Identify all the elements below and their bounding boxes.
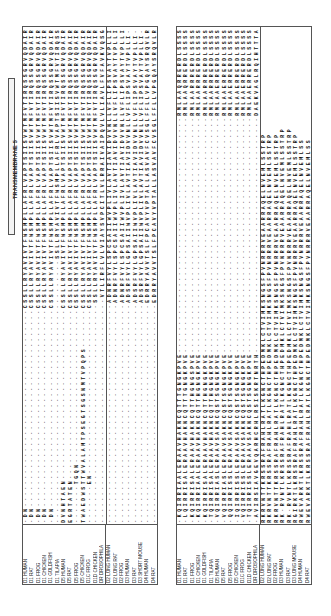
sequence-row: ----------------------------------------… — [152, 27, 158, 524]
residue: - — [152, 376, 158, 382]
residue: A — [254, 513, 260, 519]
species-labels-right: D1 HUMAND1 RATD1 FROGD1 CHICKEND1 GOLDFI… — [177, 524, 311, 584]
residue: R — [306, 464, 312, 470]
residue: N — [306, 172, 312, 178]
residue: V — [152, 150, 158, 156]
residue: - — [254, 519, 260, 525]
residue: I — [254, 486, 260, 492]
residue: V — [100, 293, 106, 299]
residue: L — [100, 84, 106, 90]
residue: C — [306, 321, 312, 327]
residue: L — [306, 392, 312, 398]
residue: - — [100, 491, 106, 497]
residue: R — [254, 409, 260, 415]
residue: - — [152, 420, 158, 426]
residue: W — [306, 513, 312, 519]
residue: - — [152, 425, 158, 431]
residue: A — [306, 211, 312, 217]
residue: S — [152, 128, 158, 134]
residue: C — [254, 431, 260, 437]
residue: - — [152, 436, 158, 442]
residue: S — [306, 453, 312, 459]
residue: S — [306, 145, 312, 151]
sequence-row: ----------------------------------------… — [100, 27, 107, 524]
residue: V — [152, 161, 158, 167]
residue: V — [100, 150, 106, 156]
residue: - — [100, 453, 106, 459]
residue: V — [100, 216, 106, 222]
residue: - — [152, 486, 158, 492]
residue: C — [100, 205, 106, 211]
residue: P — [152, 200, 158, 206]
residue: - — [100, 508, 106, 514]
residue: - — [254, 183, 260, 189]
residue: - — [100, 381, 106, 387]
residue: A — [254, 106, 260, 112]
residue: F — [152, 106, 158, 112]
residue: K — [254, 387, 260, 393]
residue: V — [254, 475, 260, 481]
residue: V — [100, 112, 106, 118]
residue: H — [254, 436, 260, 442]
residue: L — [152, 101, 158, 107]
residue: - — [152, 381, 158, 387]
residue: A — [254, 447, 260, 453]
residue: L — [152, 244, 158, 250]
residue: R — [306, 200, 312, 206]
residue: - — [254, 343, 260, 349]
residue: A — [306, 403, 312, 409]
residue: V — [254, 508, 260, 514]
residue: L — [306, 178, 312, 184]
residue: V — [306, 502, 312, 508]
residue: - — [152, 409, 158, 415]
residue: - — [100, 519, 106, 525]
residue: A — [306, 497, 312, 503]
residue: V — [100, 123, 106, 129]
residue: - — [254, 167, 260, 173]
residue: D — [152, 293, 158, 299]
residue: A — [152, 68, 158, 74]
residue: V — [306, 255, 312, 261]
species-label: D4 RAT — [305, 525, 311, 584]
residue: D — [306, 343, 312, 349]
residue: L — [100, 249, 106, 255]
residue: L — [254, 73, 260, 79]
residue: - — [152, 387, 158, 393]
residue: - — [254, 200, 260, 206]
residue: R — [306, 491, 312, 497]
residue: L — [152, 35, 158, 41]
residue: - — [254, 293, 260, 299]
residue: L — [306, 150, 312, 156]
residue: - — [254, 222, 260, 228]
residue: - — [152, 414, 158, 420]
residue: I — [100, 200, 106, 206]
residue: A — [306, 442, 312, 448]
residue: - — [152, 326, 158, 332]
residue: - — [152, 513, 158, 519]
residue: - — [100, 299, 106, 305]
residue: - — [100, 326, 106, 332]
residue: N — [306, 376, 312, 382]
residue: L — [100, 189, 106, 195]
residue: - — [152, 392, 158, 398]
residue: F — [152, 145, 158, 151]
residue: - — [254, 238, 260, 244]
residue: - — [100, 425, 106, 431]
residue: H — [254, 420, 260, 426]
residue: - — [152, 337, 158, 343]
residue: - — [100, 315, 106, 321]
residue: - — [254, 321, 260, 327]
residue: S — [100, 222, 106, 228]
residue: - — [254, 227, 260, 233]
residue: - — [100, 414, 106, 420]
residue: E — [306, 222, 312, 228]
residue: - — [254, 117, 260, 123]
residue: G — [152, 79, 158, 85]
residue: - — [254, 194, 260, 200]
residue: - — [152, 453, 158, 459]
residue: R — [306, 238, 312, 244]
residue: - — [254, 304, 260, 310]
sequence-grid-left: -DN------------------------------------C… — [23, 27, 157, 524]
residue: A — [254, 84, 260, 90]
residue: T — [152, 194, 158, 200]
